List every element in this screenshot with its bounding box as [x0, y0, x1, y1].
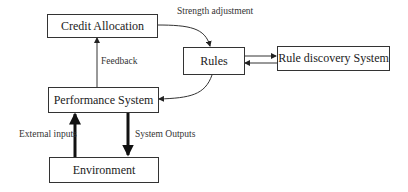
strength-adjustment-arrow — [157, 25, 210, 46]
environment-label: Environment — [73, 163, 136, 178]
rules-label: Rules — [200, 54, 227, 69]
performance-system-node: Performance System — [48, 87, 159, 113]
feedback-label: Feedback — [101, 56, 137, 66]
rule-discovery-node: Rule discovery System — [277, 46, 390, 71]
credit-allocation-label: Credit Allocation — [61, 19, 144, 34]
environment-node: Environment — [49, 157, 159, 183]
rules-node: Rules — [183, 47, 245, 75]
performance-system-label: Performance System — [54, 93, 154, 108]
external-inputs-label: External inputs — [19, 129, 77, 139]
rules-to-performance-arrow — [159, 75, 212, 99]
strength-adjustment-label: Strength adjustment — [177, 6, 253, 16]
system-outputs-label: System Outputs — [135, 129, 195, 139]
credit-allocation-node: Credit Allocation — [47, 14, 158, 38]
rule-discovery-label: Rule discovery System — [278, 51, 389, 66]
